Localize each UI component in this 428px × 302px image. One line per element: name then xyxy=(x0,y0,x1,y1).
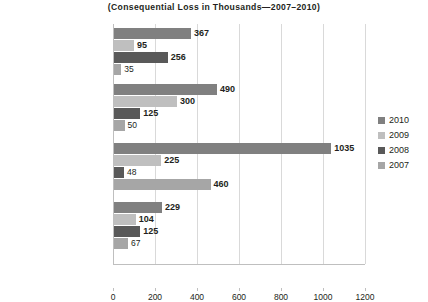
legend-label: 2010 xyxy=(389,115,409,126)
x-tick-label: 200 xyxy=(135,292,175,302)
bar-2009 xyxy=(114,96,177,107)
bar-value-label: 460 xyxy=(214,178,229,190)
bar-value-label: 300 xyxy=(180,95,195,107)
bar-row: 1035 xyxy=(114,143,365,154)
bar-value-label: 104 xyxy=(139,213,154,225)
legend-item[interactable]: 2007 xyxy=(378,158,409,173)
bar-2008 xyxy=(114,167,124,178)
x-tick-label: 800 xyxy=(261,292,301,302)
bar-2010 xyxy=(114,84,217,95)
chart-legend: 2010200920082007 xyxy=(378,113,409,173)
legend-swatch-icon xyxy=(378,162,385,169)
bar-2007 xyxy=(114,179,211,190)
bar-row: 460 xyxy=(114,179,365,190)
x-tick-mark xyxy=(155,288,156,291)
plot-area: 3679525635490300125501035225484602291041… xyxy=(113,24,365,264)
chart-title: (Consequential Loss in Thousands—2007–20… xyxy=(0,0,428,13)
bar-2007 xyxy=(114,120,125,131)
bar-row: 300 xyxy=(114,96,365,107)
bar-value-label: 50 xyxy=(128,119,137,131)
legend-label: 2008 xyxy=(389,145,409,156)
x-tick-mark xyxy=(239,288,240,291)
bar-2009 xyxy=(114,214,136,225)
x-tick-mark xyxy=(365,288,366,291)
bar-value-label: 229 xyxy=(165,201,180,213)
legend-swatch-icon xyxy=(378,117,385,124)
bar-row: 104 xyxy=(114,214,365,225)
bar-group: 49030012550 xyxy=(114,84,365,132)
bar-value-label: 1035 xyxy=(334,142,354,154)
x-tick-mark xyxy=(113,288,114,291)
chart-title-line-2: (Consequential Loss in Thousands—2007–20… xyxy=(0,1,428,13)
bar-row: 367 xyxy=(114,28,365,39)
bar-row: 35 xyxy=(114,64,365,75)
bar-2010 xyxy=(114,143,331,154)
x-tick-mark xyxy=(281,288,282,291)
bar-row: 48 xyxy=(114,167,365,178)
bar-2008 xyxy=(114,108,140,119)
bar-value-label: 125 xyxy=(143,107,158,119)
bar-row: 490 xyxy=(114,84,365,95)
bar-value-label: 67 xyxy=(131,237,140,249)
bar-row: 125 xyxy=(114,226,365,237)
legend-item[interactable]: 2009 xyxy=(378,128,409,143)
bar-row: 229 xyxy=(114,202,365,213)
bar-value-label: 256 xyxy=(171,51,186,63)
x-tick-label: 600 xyxy=(219,292,259,302)
gridline xyxy=(365,24,366,264)
x-axis-line xyxy=(113,264,365,265)
legend-item[interactable]: 2008 xyxy=(378,143,409,158)
legend-label: 2007 xyxy=(389,160,409,171)
x-tick-label: 400 xyxy=(177,292,217,302)
x-tick-mark xyxy=(323,288,324,291)
bar-value-label: 35 xyxy=(124,63,133,75)
bar-value-label: 367 xyxy=(194,27,209,39)
x-tick-mark xyxy=(197,288,198,291)
bar-group: 22910412567 xyxy=(114,202,365,250)
bar-2007 xyxy=(114,64,121,75)
bar-value-label: 95 xyxy=(137,39,147,51)
bar-row: 125 xyxy=(114,108,365,119)
bar-2010 xyxy=(114,202,162,213)
legend-swatch-icon xyxy=(378,147,385,154)
bar-value-label: 490 xyxy=(220,83,235,95)
legend-label: 2009 xyxy=(389,130,409,141)
bar-value-label: 48 xyxy=(127,166,136,178)
bar-2007 xyxy=(114,238,128,249)
bar-row: 95 xyxy=(114,40,365,51)
x-tick-label: 0 xyxy=(93,292,133,302)
bar-group: 103522548460 xyxy=(114,143,365,191)
bar-row: 225 xyxy=(114,155,365,166)
x-tick-label: 1200 xyxy=(345,292,385,302)
x-tick-label: 1000 xyxy=(303,292,343,302)
bar-2008 xyxy=(114,226,140,237)
legend-item[interactable]: 2010 xyxy=(378,113,409,128)
bar-2009 xyxy=(114,40,134,51)
bar-2008 xyxy=(114,52,168,63)
bar-2010 xyxy=(114,28,191,39)
bar-row: 67 xyxy=(114,238,365,249)
bar-row: 256 xyxy=(114,52,365,63)
bar-row: 50 xyxy=(114,120,365,131)
legend-swatch-icon xyxy=(378,132,385,139)
bar-group: 3679525635 xyxy=(114,28,365,76)
bar-value-label: 225 xyxy=(164,154,179,166)
bar-2009 xyxy=(114,155,161,166)
bar-value-label: 125 xyxy=(143,225,158,237)
